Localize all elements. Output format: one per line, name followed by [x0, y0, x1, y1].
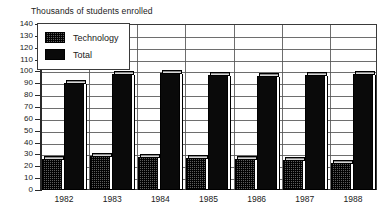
- bar-total-1987: [305, 72, 325, 190]
- bar-total-1982: [64, 80, 84, 190]
- chart-title: Thousands of students enrolled: [31, 6, 153, 16]
- bar-group: [233, 24, 281, 190]
- y-axis-tick-label: 30: [3, 150, 33, 158]
- bar-side-face: [84, 84, 87, 190]
- bar-technology-1986: [235, 156, 255, 190]
- y-axis-labels: 1401301201101009080706050403020100: [0, 0, 40, 218]
- legend-item-technology: Technology: [45, 29, 129, 46]
- bar-front-face: [42, 159, 62, 190]
- bar-top-face: [237, 156, 257, 160]
- bar-total-1988: [353, 71, 373, 190]
- y-axis-tick-label: 100: [3, 67, 33, 75]
- bar-top-face: [66, 80, 86, 84]
- legend-item-total: Total: [45, 46, 129, 63]
- bar-group: [184, 24, 232, 190]
- bar-top-face: [44, 156, 64, 160]
- bar-technology-1985: [186, 155, 206, 190]
- bar-front-face: [138, 157, 158, 190]
- x-axis-tick-label: 1987: [281, 194, 329, 204]
- y-axis-tick-label: 40: [3, 139, 33, 147]
- y-axis-tick-label: 20: [3, 162, 33, 170]
- bar-group: [136, 24, 184, 190]
- bar-side-face: [277, 77, 280, 190]
- legend-label-total: Total: [73, 50, 92, 60]
- bar-technology-1983: [90, 153, 110, 190]
- bar-total-1983: [112, 71, 132, 190]
- bar-front-face: [112, 74, 132, 190]
- y-axis-tick-label: 60: [3, 115, 33, 123]
- y-axis-tick-label: 70: [3, 103, 33, 111]
- bar-top-face: [210, 72, 230, 76]
- bar-technology-1984: [138, 154, 158, 190]
- bar-front-face: [353, 74, 373, 190]
- bar-top-face: [285, 157, 305, 161]
- bar-chart: Thousands of students enrolled 140130120…: [0, 0, 391, 218]
- bar-top-face: [140, 154, 160, 158]
- bar-front-face: [160, 73, 180, 190]
- bar-front-face: [208, 75, 228, 190]
- x-axis-tick-label: 1985: [184, 194, 232, 204]
- bar-top-face: [259, 73, 279, 77]
- x-axis-tick-label: 1983: [88, 194, 136, 204]
- bar-side-face: [132, 75, 135, 190]
- y-axis-tick-label: 80: [3, 91, 33, 99]
- bar-side-face: [325, 76, 328, 190]
- bar-front-face: [283, 160, 303, 190]
- bar-technology-1988: [331, 160, 351, 190]
- bar-top-face: [307, 72, 327, 76]
- bar-side-face: [180, 74, 183, 190]
- bar-top-face: [188, 155, 208, 159]
- legend-label-technology: Technology: [73, 33, 119, 43]
- x-axis-tick-label: 1982: [40, 194, 88, 204]
- bar-side-face: [228, 76, 231, 190]
- bar-side-face: [373, 75, 376, 190]
- y-axis-tick-label: 110: [3, 56, 33, 64]
- bar-front-face: [90, 156, 110, 190]
- x-axis-tick-label: 1984: [136, 194, 184, 204]
- y-axis-tick-label: 130: [3, 32, 33, 40]
- bar-top-face: [114, 71, 134, 75]
- bar-top-face: [355, 71, 375, 75]
- bar-technology-1987: [283, 157, 303, 190]
- y-axis-tick: [35, 190, 40, 191]
- y-axis-tick-label: 120: [3, 44, 33, 52]
- bar-group: [281, 24, 329, 190]
- x-axis-tick-label: 1986: [233, 194, 281, 204]
- bar-top-face: [333, 160, 353, 164]
- x-axis-tick-label: 1988: [329, 194, 377, 204]
- bar-total-1986: [257, 73, 277, 190]
- bar-front-face: [64, 83, 84, 190]
- legend-swatch-technology-icon: [45, 32, 65, 43]
- y-axis-tick-label: 140: [3, 20, 33, 28]
- bar-group: [329, 24, 377, 190]
- legend: Technology Total: [37, 23, 130, 70]
- bar-front-face: [257, 76, 277, 190]
- bar-total-1985: [208, 72, 228, 190]
- bar-technology-1982: [42, 156, 62, 190]
- bar-front-face: [235, 159, 255, 190]
- bar-top-face: [92, 153, 112, 157]
- bar-top-face: [162, 70, 182, 74]
- y-axis-tick-label: 10: [3, 174, 33, 182]
- y-axis-tick-label: 90: [3, 79, 33, 87]
- x-axis-labels: 1982198319841985198619871988: [40, 194, 377, 210]
- y-axis-tick-label: 0: [3, 186, 33, 194]
- bar-front-face: [186, 158, 206, 190]
- bar-front-face: [331, 163, 351, 190]
- y-axis-tick-label: 50: [3, 127, 33, 135]
- bar-front-face: [305, 75, 325, 190]
- legend-swatch-total-icon: [45, 49, 65, 60]
- bar-total-1984: [160, 70, 180, 190]
